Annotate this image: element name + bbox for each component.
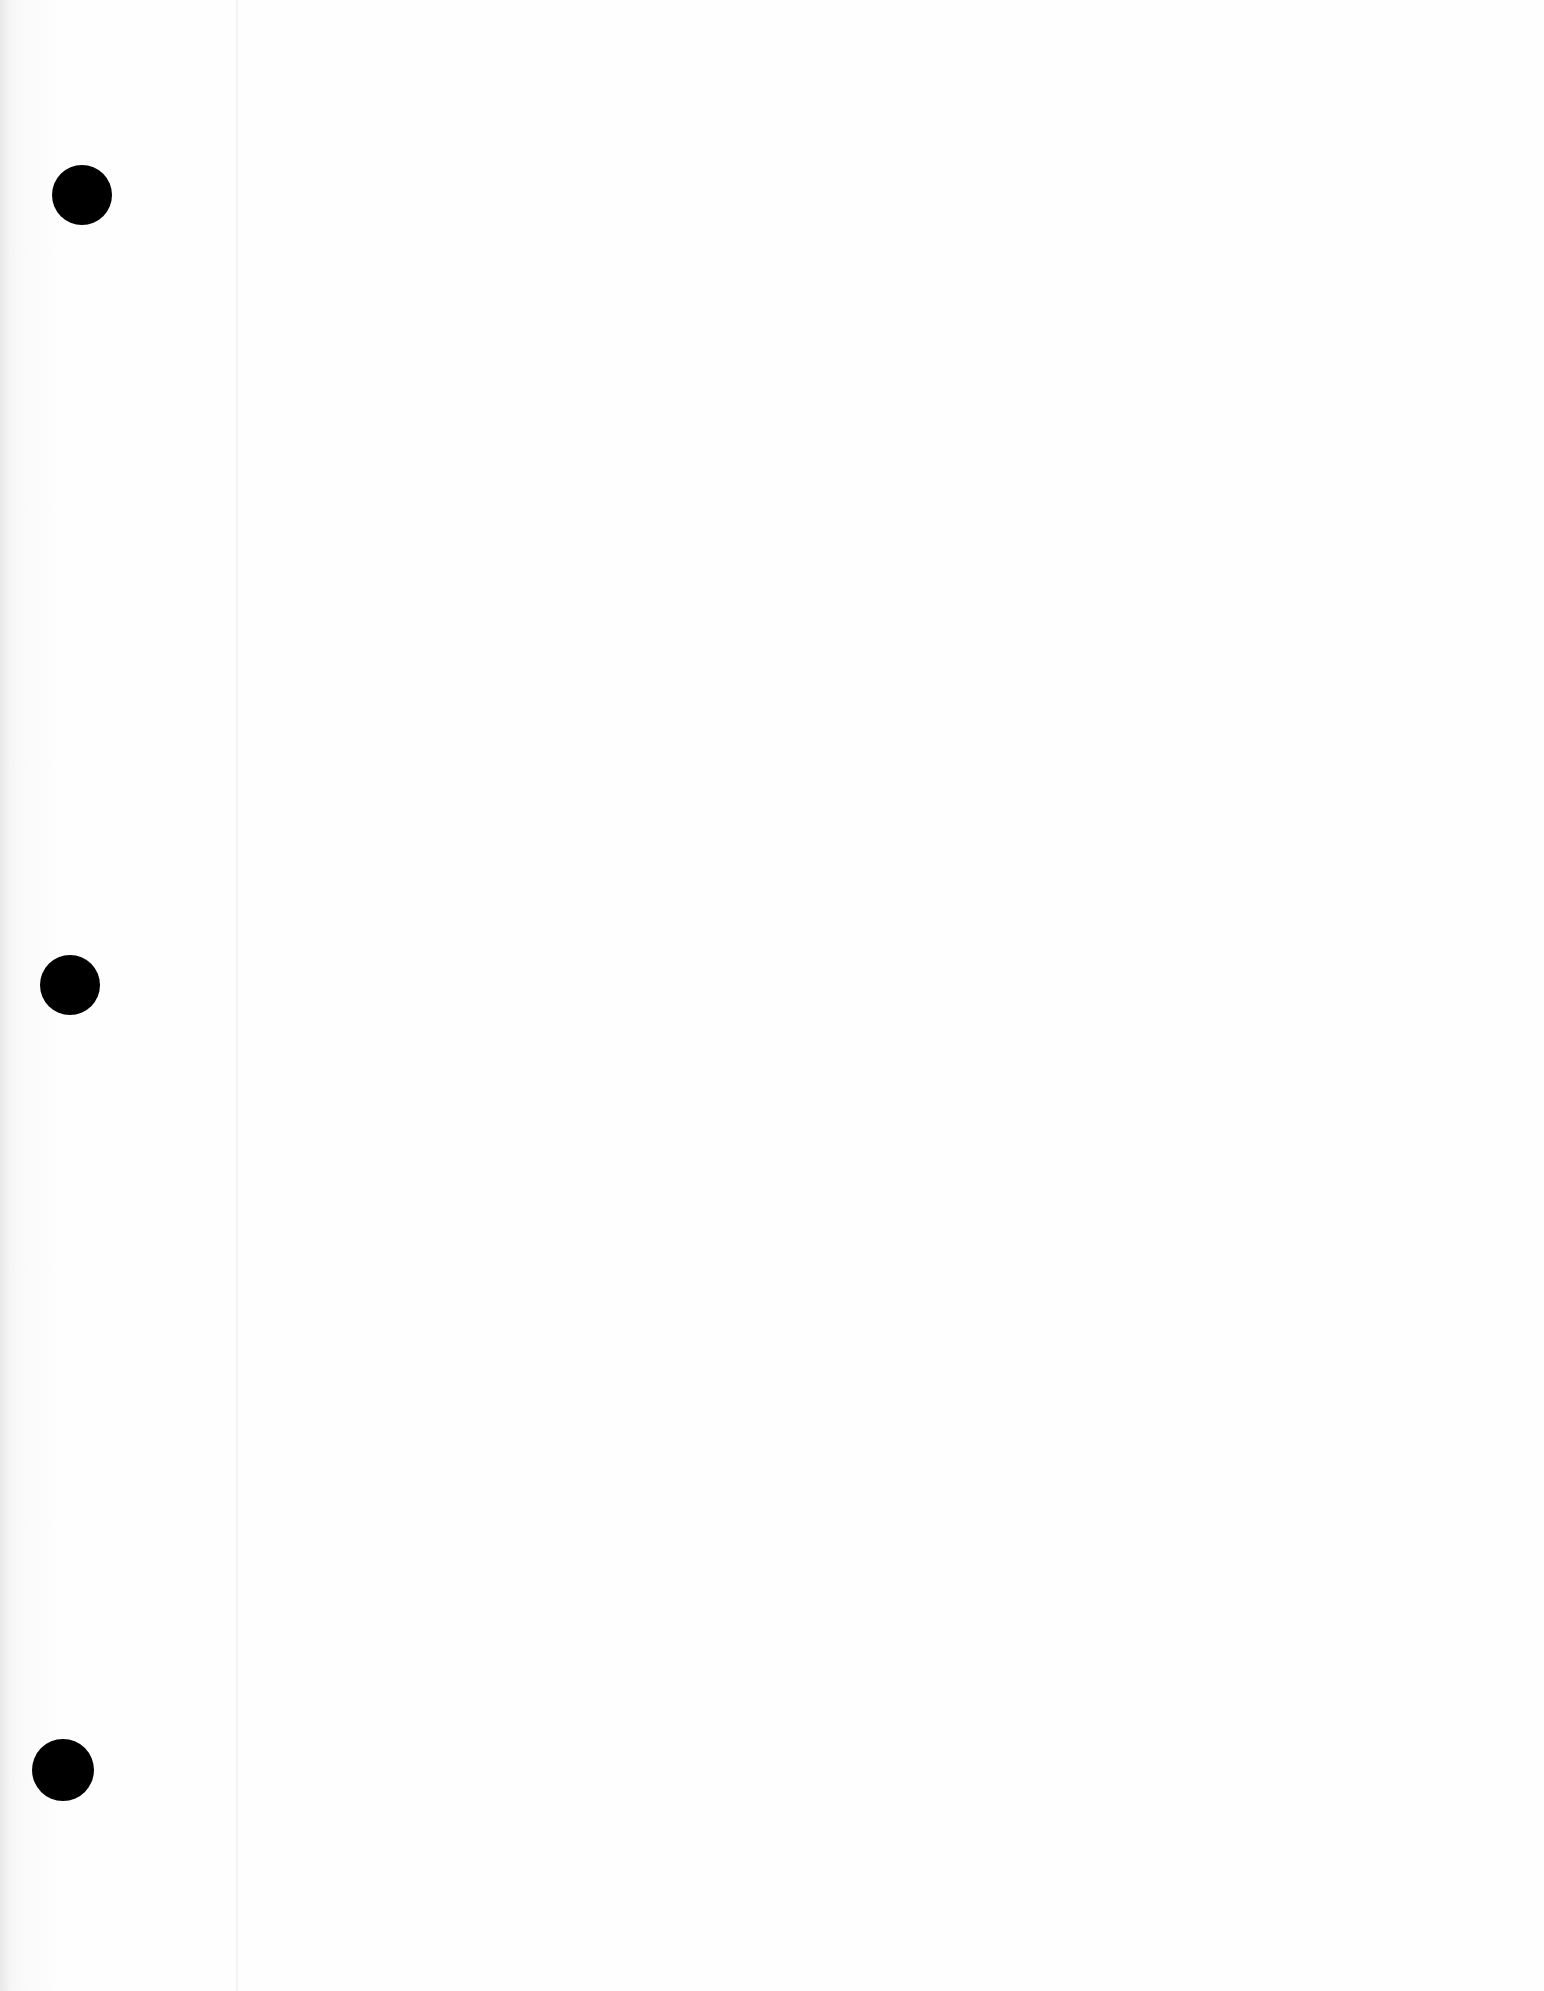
blank-page <box>0 0 1544 1991</box>
punch-hole-icon <box>52 165 112 225</box>
margin-line <box>236 0 238 1991</box>
punch-hole-icon <box>40 955 100 1015</box>
punch-hole-icon <box>32 1739 94 1801</box>
page-edge-shadow <box>0 0 10 1991</box>
